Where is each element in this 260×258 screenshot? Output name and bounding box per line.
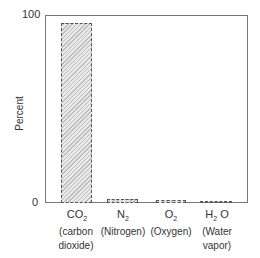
category-label-n2: N2: [98, 208, 148, 222]
bar-o2: [156, 200, 186, 203]
bar-h2o: [200, 201, 232, 203]
category-label-h2o: H2 O: [192, 208, 242, 222]
bar-co2: [61, 23, 92, 203]
y-axis-label: Percent: [14, 89, 25, 139]
bar-n2: [107, 199, 138, 203]
category-label-co2: CO2: [52, 208, 102, 222]
ytick-100: 100: [22, 8, 40, 20]
ytick-0: 0: [32, 196, 38, 208]
category-desc-h2o: (Watervapor): [187, 225, 247, 253]
category-label-o2: O2: [146, 208, 196, 222]
